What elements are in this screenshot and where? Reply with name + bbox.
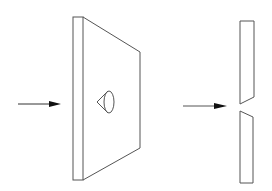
incident-arrow-right [183, 103, 227, 109]
plate-front-edge [73, 17, 83, 180]
diagram-svg [0, 0, 272, 191]
plate-face-outline [83, 17, 140, 180]
plate-perspective [73, 17, 140, 180]
cross-section-bottom-slab [240, 111, 253, 183]
conical-hole-icon [97, 91, 114, 113]
cross-section [240, 21, 254, 183]
diagram-canvas [0, 0, 272, 191]
cross-section-top-slab [240, 21, 254, 104]
incident-arrow-left [18, 101, 61, 107]
